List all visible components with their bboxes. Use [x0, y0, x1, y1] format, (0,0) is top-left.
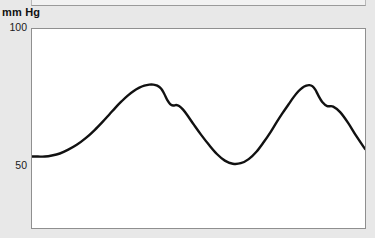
y-axis-tick-50: 50	[0, 159, 27, 171]
y-axis-unit-label: mm Hg	[2, 6, 40, 18]
upper-panel-bottom-edge	[31, 0, 366, 6]
plot-area	[31, 28, 366, 229]
screenshot-root: mm Hg 100 50	[0, 0, 375, 238]
waveform-svg	[32, 29, 365, 228]
y-axis-tick-100: 100	[0, 21, 27, 33]
arterial-pressure-waveform-line	[32, 84, 365, 163]
